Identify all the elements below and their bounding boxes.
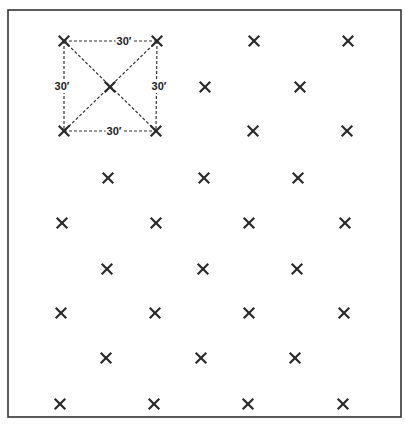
x-mark-icon (194, 351, 208, 365)
x-mark-icon (55, 216, 69, 230)
x-mark-icon (100, 262, 114, 276)
x-mark-icon (149, 124, 163, 138)
x-mark-icon (246, 124, 260, 138)
x-mark-icon (338, 216, 352, 230)
x-mark-icon (290, 262, 304, 276)
x-mark-icon (53, 397, 67, 411)
x-mark-icon (242, 306, 256, 320)
x-mark-icon (147, 397, 161, 411)
x-mark-icon (196, 262, 210, 276)
x-mark-icon (197, 171, 211, 185)
x-mark-icon (148, 306, 162, 320)
x-mark-icon (103, 80, 117, 94)
x-mark-icon (291, 171, 305, 185)
x-mark-icon (150, 34, 164, 48)
x-mark-icon (293, 80, 307, 94)
x-mark-icon (241, 397, 255, 411)
planting-diagram: 30′30′30′30′ (0, 0, 405, 429)
dimension-label-top: 30′ (116, 35, 133, 47)
x-mark-icon (340, 124, 354, 138)
x-mark-icon (242, 216, 256, 230)
x-mark-icon (288, 351, 302, 365)
x-mark-icon (57, 124, 71, 138)
x-mark-icon (149, 216, 163, 230)
dimension-label-left: 30′ (55, 79, 70, 93)
x-mark-icon (247, 34, 261, 48)
dimension-label-right: 30′ (152, 79, 167, 93)
x-mark-icon (99, 351, 113, 365)
x-mark-icon (198, 80, 212, 94)
dimension-label-bottom: 30′ (106, 125, 123, 137)
x-mark-icon (57, 34, 71, 48)
x-mark-icon (341, 34, 355, 48)
x-mark-icon (336, 397, 350, 411)
x-mark-icon (101, 171, 115, 185)
x-mark-icon (337, 306, 351, 320)
x-mark-icon (54, 306, 68, 320)
